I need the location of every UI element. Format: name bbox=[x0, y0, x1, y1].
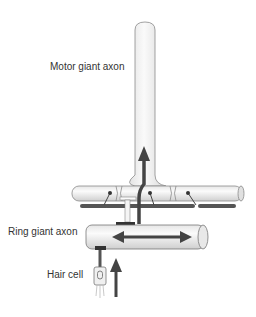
motor-giant-axon bbox=[130, 22, 167, 186]
neural-circuit-diagram bbox=[0, 0, 256, 317]
lateral-motor-axon bbox=[72, 186, 244, 201]
hair-cell bbox=[94, 246, 106, 298]
input-arrow-icon bbox=[110, 258, 122, 297]
